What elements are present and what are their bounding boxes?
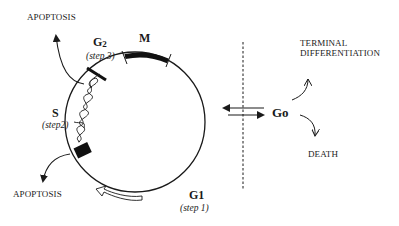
g2-step-label: (step 3) [86,51,115,62]
cell-cycle-diagram: APOPTOSIS APOPTOSIS M G2 (step 3) S (ste… [0,0,399,226]
dna-helix-icon [74,74,100,142]
apoptosis-bottom-label: APOPTOSIS [13,189,62,199]
checkpoint-block-icon [74,142,92,158]
m-phase-label: M [139,31,150,45]
go-label: Go [272,105,289,120]
apoptosis-top-arrow [56,36,84,84]
g1-phase-label: G1 [189,188,204,202]
death-arrow [300,115,315,136]
cell-cycle-circle [65,52,205,192]
terminal-arrow [292,79,308,100]
g1-step-label: (step 1) [180,203,209,214]
apoptosis-top-label: APOPTOSIS [27,12,76,22]
terminal-label-line2: DIFFERENTIATION [300,48,380,58]
death-label: DEATH [308,149,338,159]
double-arrow-icon [224,108,264,115]
s-step-label: (step2) [42,120,68,131]
hollow-arrow-icon [96,186,142,200]
apoptosis-bottom-arrow [43,154,70,181]
m-phase-arc [122,51,171,67]
s-phase-label: S [52,106,59,120]
g2-phase-label: G2 [93,35,107,49]
terminal-label-line1: TERMINAL [300,38,347,48]
